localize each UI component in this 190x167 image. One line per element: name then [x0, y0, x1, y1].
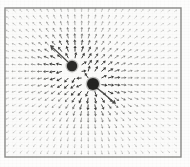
figure-container: [0, 0, 190, 167]
upper-left-charge: [66, 60, 79, 73]
vector-field-plot: [0, 0, 190, 167]
lower-right-charge: [86, 77, 101, 92]
